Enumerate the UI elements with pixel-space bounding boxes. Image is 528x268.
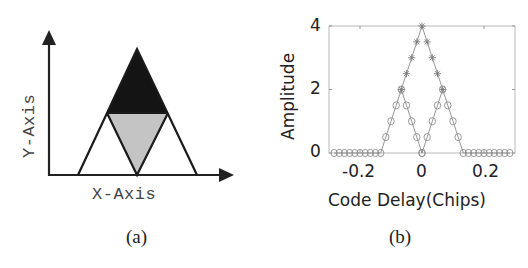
x-tick-0: 0	[416, 161, 427, 181]
y-tick-4: 4	[310, 15, 321, 35]
chart-b-canvas	[0, 0, 528, 268]
y-axis-label-amplitude: Amplitude	[278, 53, 298, 140]
plot-frame	[329, 26, 515, 153]
series-lines	[334, 26, 510, 153]
panel-b-chart: Amplitude 0 2 4 -0.2 0 0.2 Code Delay(Ch…	[0, 0, 528, 268]
x-tick-0-2: 0.2	[472, 161, 499, 181]
y-tick-2: 2	[310, 78, 321, 98]
caption-b: (b)	[389, 226, 411, 248]
x-axis-label-code-delay: Code Delay(Chips)	[328, 190, 486, 210]
y-tick-0: 0	[310, 141, 321, 161]
x-tick-neg-0-2: -0.2	[342, 161, 375, 181]
series-markers	[331, 22, 513, 156]
tick-marks	[329, 26, 515, 153]
